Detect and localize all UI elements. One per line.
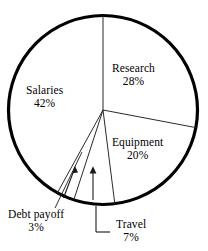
slice-label-debt-payoff-value: 3% [8, 221, 64, 234]
slice-label-travel-value: 7% [116, 231, 146, 244]
pie-chart-figure: Research 28% Salaries 42% Equipment 20% … [0, 0, 208, 251]
slice-label-equipment: Equipment 20% [112, 136, 163, 162]
slice-label-research: Research 28% [112, 62, 155, 88]
slice-label-salaries-name: Salaries [26, 84, 63, 97]
slice-label-debt-payoff-name: Debt payoff [8, 208, 64, 221]
slice-label-travel: Travel 7% [116, 218, 146, 244]
slice-label-travel-name: Travel [116, 218, 146, 231]
slice-label-equipment-value: 20% [112, 149, 163, 162]
slice-label-debt-payoff: Debt payoff 3% [8, 208, 64, 234]
slice-label-research-value: 28% [112, 75, 155, 88]
slice-label-salaries-value: 42% [26, 97, 63, 110]
slice-label-research-name: Research [112, 62, 155, 75]
slice-label-equipment-name: Equipment [112, 136, 163, 149]
slice-label-salaries: Salaries 42% [26, 84, 63, 110]
